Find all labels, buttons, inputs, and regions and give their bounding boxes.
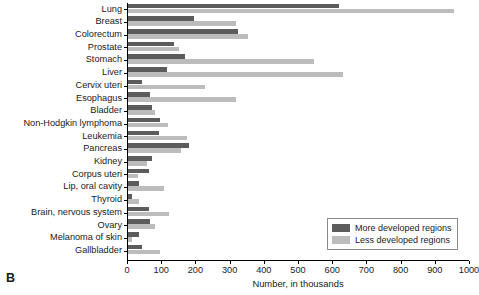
bar-less-developed [128, 72, 343, 77]
category-label: Bladder [90, 105, 122, 116]
bar-row: Thyroid [127, 194, 469, 207]
x-axis-tick-label: 100 [154, 265, 169, 276]
y-axis-tick [124, 22, 127, 23]
y-axis-tick [124, 251, 127, 252]
bar-more-developed [128, 29, 238, 34]
bar-less-developed [128, 161, 147, 166]
bar-more-developed [128, 156, 152, 161]
x-axis-tick-mark [264, 261, 265, 264]
bar-more-developed [128, 92, 150, 97]
bar-row: Esophagus [127, 92, 469, 105]
bar-less-developed [128, 123, 168, 128]
bar-less-developed [128, 250, 160, 255]
bar-more-developed [128, 16, 194, 21]
x-axis-tick-mark [401, 261, 402, 264]
bar-less-developed [128, 97, 236, 102]
bar-less-developed [128, 9, 454, 14]
bar-less-developed [128, 212, 169, 217]
category-label: Prostate [88, 42, 122, 53]
bar-row: Breast [127, 16, 469, 29]
category-label: Pancreas [83, 143, 122, 154]
category-label: Leukemia [82, 131, 122, 142]
bar-more-developed [128, 131, 159, 136]
bar-more-developed [128, 207, 149, 212]
y-axis-tick [124, 200, 127, 201]
category-label: Gallbladder [75, 245, 122, 256]
x-axis-tick-label: 1000 [459, 265, 479, 276]
bar-less-developed [128, 174, 138, 179]
bar-more-developed [128, 181, 139, 186]
bar-row: Pancreas [127, 143, 469, 156]
bar-more-developed [128, 118, 160, 123]
bar-less-developed [128, 85, 205, 90]
y-axis-tick [124, 174, 127, 175]
bar-row: Lip, oral cavity [127, 181, 469, 194]
category-label: Brain, nervous system [31, 207, 122, 218]
bar-less-developed [128, 199, 139, 204]
x-axis-tick-mark [469, 261, 470, 264]
category-label: Ovary [97, 220, 122, 231]
category-label: Corpus uteri [72, 169, 122, 180]
bar-row: Kidney [127, 155, 469, 168]
bar-less-developed [128, 59, 314, 64]
y-axis-tick [124, 35, 127, 36]
y-axis-tick [124, 47, 127, 48]
y-axis-tick [124, 149, 127, 150]
category-label: Esophagus [76, 93, 122, 104]
bar-row: Bladder [127, 105, 469, 118]
x-axis-tick-label: 700 [359, 265, 374, 276]
x-axis-tick-mark [298, 261, 299, 264]
category-label: Breast [95, 16, 122, 27]
bar-row: Stomach [127, 54, 469, 67]
bar-row: Brain, nervous system [127, 206, 469, 219]
x-axis-tick-mark [161, 261, 162, 264]
bar-less-developed [128, 148, 181, 153]
y-axis-tick [124, 60, 127, 61]
x-axis-label: Number, in thousands [127, 278, 469, 289]
category-label: Cervix uteri [76, 80, 122, 91]
bar-more-developed [128, 4, 339, 9]
category-label: Stomach [86, 54, 122, 65]
bar-more-developed [128, 232, 139, 237]
bar-less-developed [128, 47, 179, 52]
x-axis-tick-label: 500 [290, 265, 305, 276]
bar-row: Prostate [127, 41, 469, 54]
category-label: Thyroid [91, 194, 122, 205]
x-axis-tick-mark [332, 261, 333, 264]
x-axis-tick-mark [127, 261, 128, 264]
x-axis-tick-label: 900 [427, 265, 442, 276]
bar-less-developed [128, 136, 187, 141]
bar-less-developed [128, 110, 155, 115]
y-axis-tick [124, 213, 127, 214]
y-axis-tick [124, 187, 127, 188]
bar-row: Lung [127, 3, 469, 16]
bar-less-developed [128, 224, 155, 229]
category-label: Lip, oral cavity [63, 181, 122, 192]
x-axis-tick-label: 300 [222, 265, 237, 276]
x-axis-tick-mark [230, 261, 231, 264]
x-axis-tick-mark [435, 261, 436, 264]
bar-more-developed [128, 67, 167, 72]
panel-letter: B [6, 271, 15, 285]
bar-less-developed [128, 21, 236, 26]
y-axis-tick [124, 162, 127, 163]
category-label: Lung [102, 4, 122, 15]
legend-swatch-icon-less-developed [332, 236, 350, 244]
x-axis-tick-label: 400 [256, 265, 271, 276]
bar-more-developed [128, 245, 142, 250]
bar-more-developed [128, 169, 149, 174]
chart-legend: More developed regions Less developed re… [327, 218, 458, 250]
y-axis-tick [124, 111, 127, 112]
bar-less-developed [128, 237, 132, 242]
x-axis-tick-mark [366, 261, 367, 264]
x-axis-tick-mark [195, 261, 196, 264]
y-axis-tick [124, 124, 127, 125]
bar-row: Liver [127, 67, 469, 80]
bar-row: Corpus uteri [127, 168, 469, 181]
category-label: Melanoma of skin [50, 232, 122, 243]
y-axis-tick [124, 238, 127, 239]
bar-row: Cervix uteri [127, 79, 469, 92]
bar-more-developed [128, 194, 132, 199]
bar-row: Colorectum [127, 28, 469, 41]
bar-row: Non-Hodgkin lymphoma [127, 117, 469, 130]
